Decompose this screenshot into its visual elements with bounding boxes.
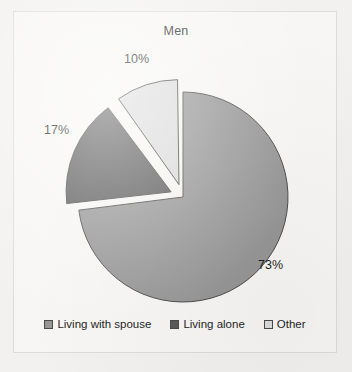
legend-swatch-living-alone <box>170 320 179 329</box>
legend-swatch-living-with-spouse <box>44 320 53 329</box>
pie-chart-figure: Men 10% 17% 73% Living with spouseLiving… <box>0 0 352 372</box>
slice-data-label-living-alone: 17% <box>44 123 69 137</box>
legend-item-living-alone: Living alone <box>170 318 244 330</box>
slice-data-label-living-with-spouse: 73% <box>258 258 283 272</box>
chart-legend: Living with spouseLiving aloneOther <box>13 318 337 330</box>
legend-item-living-with-spouse: Living with spouse <box>44 318 151 330</box>
chart-title: Men <box>0 24 352 38</box>
legend-label-living-alone: Living alone <box>183 318 244 330</box>
slice-data-label-other: 10% <box>124 52 149 66</box>
pie-svg <box>13 11 337 353</box>
pie-plot-area <box>13 11 337 353</box>
legend-item-other: Other <box>264 318 306 330</box>
legend-label-other: Other <box>277 318 306 330</box>
legend-swatch-other <box>264 320 273 329</box>
pie-slice-group <box>66 80 288 302</box>
legend-label-living-with-spouse: Living with spouse <box>57 318 151 330</box>
